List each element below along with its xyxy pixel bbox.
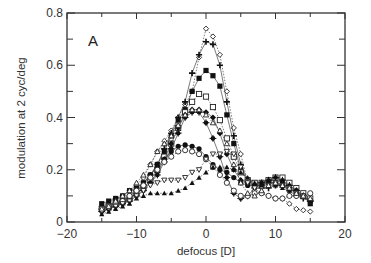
triangle-filled-marker [196, 175, 201, 180]
chart: −20−100102000.20.40.60.8 A defocus [D] m… [0, 0, 371, 263]
triangle-open-marker [231, 162, 236, 167]
circle-open-marker [148, 175, 153, 180]
square-open-marker [190, 99, 195, 104]
circle-open-marker [224, 180, 229, 185]
square-filled-marker [231, 141, 236, 146]
triangle-down-open-marker [183, 176, 188, 181]
circle-open-marker [134, 188, 139, 193]
triangle-down-open-marker [210, 152, 215, 157]
circle-open-marker [169, 154, 174, 159]
circle-open-marker [176, 149, 181, 154]
circle-open-marker [280, 196, 285, 201]
x-tick-label: −10 [126, 227, 147, 241]
plus-marker [189, 70, 195, 76]
triangle-open-marker [245, 191, 250, 196]
triangle-down-open-marker [190, 170, 195, 175]
square-filled-marker [210, 73, 215, 78]
x-axis-label: defocus [D] [177, 245, 235, 257]
circle-open-marker [266, 193, 271, 198]
triangle-down-open-marker [148, 183, 153, 188]
circle-open-marker [162, 159, 167, 164]
circle-filled-marker [183, 142, 188, 147]
y-tick-label: 0.8 [46, 6, 63, 20]
diamond-open-marker [301, 208, 306, 213]
triangle-filled-marker [190, 180, 195, 185]
diamond-open-marker [217, 52, 222, 57]
triangle-filled-marker [176, 188, 181, 193]
square-filled-marker [196, 76, 201, 81]
diamond-open-marker [287, 201, 292, 206]
triangle-open-marker [134, 180, 139, 185]
circle-open-marker [287, 193, 292, 198]
square-filled-marker [190, 89, 195, 94]
circle-filled-marker [196, 146, 201, 151]
plus-marker [203, 39, 209, 45]
series-line [102, 71, 310, 204]
circle-open-marker [196, 151, 201, 156]
circle-open-marker [155, 167, 160, 172]
square-filled-marker [224, 112, 229, 117]
y-axis-label: modulation at 2 cyc/deg [15, 57, 27, 178]
triangle-filled-marker [162, 191, 167, 196]
x-tick-label: −20 [57, 227, 78, 241]
x-tick-label: 20 [338, 227, 352, 241]
triangle-down-open-marker [155, 181, 160, 186]
circle-open-marker [231, 188, 236, 193]
circle-filled-marker [224, 170, 229, 175]
x-tick-label: 10 [269, 227, 283, 241]
circle-open-marker [273, 196, 278, 201]
diamond-open-marker [308, 209, 313, 214]
triangle-filled-marker [203, 170, 208, 175]
circle-filled-marker [231, 175, 236, 180]
y-tick-label: 0.6 [46, 58, 63, 72]
circle-filled-marker [176, 144, 181, 149]
square-filled-marker [162, 149, 167, 154]
triangle-down-open-marker [196, 168, 201, 173]
circle-open-marker [141, 183, 146, 188]
triangle-down-open-marker [176, 178, 181, 183]
series-layer [98, 26, 313, 216]
plus-marker [217, 62, 223, 68]
square-filled-marker [217, 84, 222, 89]
x-tick-label: 0 [203, 227, 210, 241]
triangle-filled-marker [183, 185, 188, 190]
square-open-marker [217, 118, 222, 123]
circle-open-marker [238, 193, 243, 198]
circle-open-marker [183, 148, 188, 153]
square-open-marker [210, 104, 215, 109]
y-tick-label: 0.2 [46, 163, 63, 177]
square-filled-marker [203, 68, 208, 73]
circle-open-marker [190, 149, 195, 154]
panel-label: A [88, 32, 98, 49]
circle-open-marker [217, 172, 222, 177]
square-open-marker [203, 94, 208, 99]
circle-filled-marker [169, 149, 174, 154]
circle-cross-marker [203, 119, 210, 126]
circle-filled-marker [190, 144, 195, 149]
y-tick-label: 0 [56, 215, 63, 229]
circle-open-marker [127, 193, 132, 198]
triangle-filled-marker [141, 193, 146, 198]
circle-cross-marker [210, 135, 217, 142]
y-tick-label: 0.4 [46, 111, 63, 125]
square-open-marker [196, 91, 201, 96]
